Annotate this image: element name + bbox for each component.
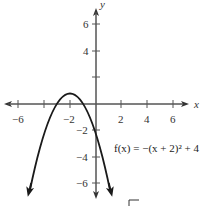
x-tick-label: −2 xyxy=(63,113,75,125)
right-arrow-icon xyxy=(109,183,111,192)
x-tick-label: 6 xyxy=(170,113,176,125)
x-tick-label: −6 xyxy=(12,113,24,125)
y-tick-label: 6 xyxy=(83,18,89,30)
y-axis: 6 4 −2 −4 −6 y xyxy=(76,0,105,195)
left-arrow-icon xyxy=(29,183,31,192)
x-axis: −6 −2 2 4 6 x xyxy=(8,98,199,125)
y-tick-label: −6 xyxy=(76,177,88,189)
y-tick-label: −2 xyxy=(76,124,88,136)
x-tick-label: 2 xyxy=(118,113,124,125)
x-tick-label: 4 xyxy=(144,113,150,125)
y-tick-label: −4 xyxy=(76,151,88,163)
function-label: f(x) = −(x + 2)² + 4 xyxy=(114,142,199,155)
decorative-mark xyxy=(129,200,139,206)
x-axis-label: x xyxy=(193,98,199,110)
y-tick-label: 4 xyxy=(83,45,89,57)
y-axis-label: y xyxy=(99,0,105,10)
parabola-chart: −6 −2 2 4 6 x 6 4 −2 −4 −6 y f(x) = −(x … xyxy=(0,0,208,206)
